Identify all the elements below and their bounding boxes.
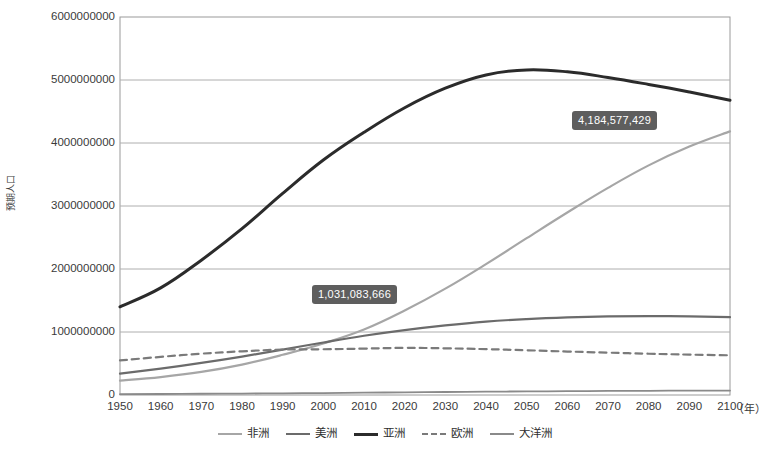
legend-label: 亚洲	[383, 428, 405, 440]
legend-item-2[interactable]: 亚洲	[354, 428, 405, 440]
data-label-callout: 4,184,577,429	[573, 112, 656, 129]
x-tick-label: 1970	[179, 400, 223, 412]
plot-area	[0, 0, 770, 452]
population-projection-chart: 预期人口 01000000000200000000030000000004000…	[0, 0, 770, 452]
legend-item-1[interactable]: 美洲	[286, 428, 337, 440]
chart-legend: 非洲美洲亚洲欧洲大洋洲	[0, 428, 770, 440]
legend-item-3[interactable]: 欧洲	[422, 428, 473, 440]
legend-label: 非洲	[247, 428, 269, 440]
x-tick-label: 2020	[383, 400, 427, 412]
x-tick-label: 2050	[505, 400, 549, 412]
x-tick-label: 2030	[423, 400, 467, 412]
x-tick-label: 2040	[464, 400, 508, 412]
x-tick-label: 2060	[545, 400, 589, 412]
x-tick-label: 2010	[342, 400, 386, 412]
x-tick-label: 2070	[586, 400, 630, 412]
x-tick-label: 1960	[139, 400, 183, 412]
legend-label: 美洲	[315, 428, 337, 440]
x-tick-label: 2090	[667, 400, 711, 412]
data-label-callout: 1,031,083,666	[313, 286, 396, 303]
legend-label: 大洋洲	[519, 428, 552, 440]
x-tick-label: 2080	[627, 400, 671, 412]
x-axis-unit-label: （年）	[733, 400, 766, 416]
legend-item-4[interactable]: 大洋洲	[490, 428, 552, 440]
x-tick-label: 2000	[301, 400, 345, 412]
x-tick-label: 1950	[98, 400, 142, 412]
legend-label: 欧洲	[451, 428, 473, 440]
x-tick-label: 1980	[220, 400, 264, 412]
x-tick-label: 1990	[261, 400, 305, 412]
legend-item-0[interactable]: 非洲	[218, 428, 269, 440]
